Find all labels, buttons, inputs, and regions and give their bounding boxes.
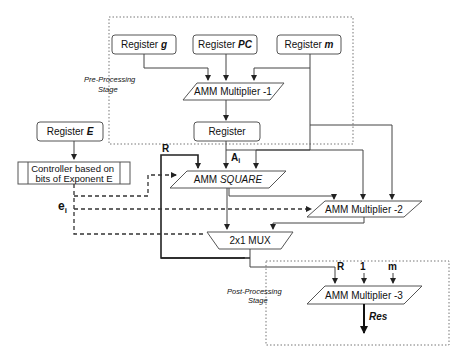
svg-text:Register: Register bbox=[208, 126, 246, 137]
res-label: Res bbox=[369, 311, 388, 322]
amm-multiplier-3: AMM Multiplier -3 bbox=[307, 286, 422, 304]
svg-text:AMM Multiplier -3: AMM Multiplier -3 bbox=[325, 290, 403, 301]
register-m: Register m bbox=[277, 35, 341, 54]
post-1-label: 1 bbox=[360, 261, 366, 272]
post-m-label: m bbox=[388, 261, 397, 272]
post-r-label: R bbox=[337, 261, 345, 272]
svg-text:AMM Multiplier -1: AMM Multiplier -1 bbox=[194, 86, 272, 97]
svg-text:Register E: Register E bbox=[47, 126, 94, 137]
register-e: Register E bbox=[37, 122, 103, 141]
ai-label: Ai bbox=[231, 152, 240, 164]
pre-processing-stage-label: Pre-Processing Stage bbox=[84, 75, 137, 94]
svg-text:Controller based on bits: Controller based on bits of Exponent E bbox=[31, 163, 117, 184]
post-processing-stage-label: Post-Processing Stage bbox=[227, 287, 284, 305]
svg-text:AMM SQUARE: AMM SQUARE bbox=[194, 174, 263, 185]
amm-multiplier-1: AMM Multiplier -1 bbox=[183, 83, 284, 100]
exponent-controller: Controller based on bits of Exponent E bbox=[18, 162, 130, 184]
intermediate-register: Register bbox=[194, 122, 260, 141]
svg-text:2x1 MUX: 2x1 MUX bbox=[229, 235, 270, 246]
r-feedback-label: R bbox=[162, 143, 170, 154]
svg-text:Register m: Register m bbox=[285, 39, 334, 50]
register-pc: Register PC bbox=[193, 35, 257, 54]
ei-label: ei bbox=[58, 199, 67, 215]
svg-text:Register PC: Register PC bbox=[198, 39, 253, 50]
svg-text:Register g: Register g bbox=[121, 39, 167, 50]
amm-square: AMM SQUARE bbox=[170, 171, 286, 188]
svg-text:AMM Multiplier -2: AMM Multiplier -2 bbox=[325, 204, 403, 215]
exponentiation-architecture-diagram: Pre-Processing Stage Post-Processing Sta… bbox=[0, 0, 465, 360]
amm-multiplier-2: AMM Multiplier -2 bbox=[307, 201, 422, 217]
register-g: Register g bbox=[112, 35, 176, 54]
mux-2x1: 2x1 MUX bbox=[207, 232, 293, 249]
